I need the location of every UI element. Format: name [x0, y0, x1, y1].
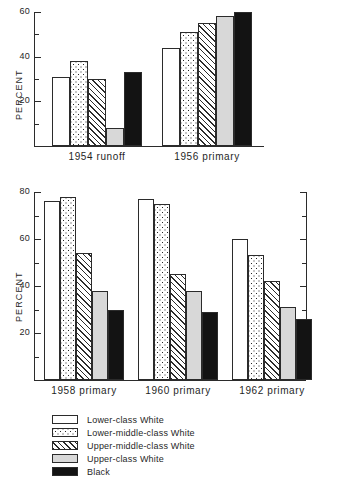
y-axis-tick-label: 20 [8, 327, 30, 337]
x-axis-group-label: 1960 primary [126, 385, 230, 396]
y-axis-tick-right [300, 192, 306, 193]
y-axis-tick [35, 263, 39, 264]
bar [186, 291, 202, 380]
bar [216, 16, 234, 146]
figure-root: 6040201954 runoff1956 primary PERCENT 80… [0, 0, 341, 489]
legend-label: Lower-middle-class White [87, 428, 195, 438]
y-axis-tick [35, 192, 41, 193]
bar [106, 128, 124, 146]
legend-item: Lower-class White [52, 413, 292, 426]
y-axis-tick-right [300, 239, 306, 240]
y-axis-tick-right [302, 310, 306, 311]
legend-swatch [52, 415, 78, 424]
y-axis-tick [35, 239, 41, 240]
x-axis-group-label: 1954 runoff [40, 151, 154, 162]
x-axis-group-label: 1956 primary [150, 151, 264, 162]
y-axis-tick-label: 60 [8, 6, 30, 16]
legend-label: Black [87, 467, 110, 477]
y-axis-tick [35, 286, 41, 287]
bar [296, 319, 312, 380]
y-axis-title-bottom: PERCENT [14, 271, 24, 322]
legend-swatch [52, 441, 78, 450]
plot-area-top: 6040201954 runoff1956 primary [34, 12, 264, 146]
bar [76, 253, 92, 380]
y-axis-tick [35, 310, 39, 311]
chart-legend: Lower-class WhiteLower-middle-class Whit… [52, 413, 292, 478]
y-axis-tick [35, 57, 41, 58]
y-axis-tick [35, 101, 41, 102]
legend-swatch [52, 467, 78, 476]
legend-item: Lower-middle-class White [52, 426, 292, 439]
bar [162, 48, 180, 146]
y-axis-title-top: PERCENT [14, 69, 24, 120]
y-axis-tick-label: 60 [8, 233, 30, 243]
y-axis-tick-right [302, 216, 306, 217]
y-axis-tick-right [300, 286, 306, 287]
y-axis-tick-label: 80 [8, 186, 30, 196]
legend-swatch [52, 454, 78, 463]
bar [180, 32, 198, 146]
bar [198, 23, 216, 146]
bar [138, 199, 154, 380]
x-axis-line [34, 380, 306, 381]
bar [232, 239, 248, 380]
legend-item: Upper-middle-class White [52, 439, 292, 452]
bar [280, 307, 296, 380]
chart-panel-top: 6040201954 runoff1956 primary [34, 12, 264, 146]
bar [52, 77, 70, 146]
chart-panel-bottom: 806040201958 primary1960 primary1962 pri… [34, 192, 306, 380]
bar [124, 72, 142, 146]
bar [70, 61, 88, 146]
x-axis-line [34, 146, 264, 147]
legend-swatch [52, 428, 78, 437]
y-axis-tick [35, 79, 39, 80]
bar [108, 310, 124, 381]
bar [154, 204, 170, 380]
y-axis-tick [35, 124, 39, 125]
legend-label: Upper-class White [87, 454, 164, 464]
bar [248, 255, 264, 380]
y-axis-tick-right [302, 263, 306, 264]
x-axis-group-label: 1958 primary [32, 385, 136, 396]
bar [202, 312, 218, 380]
bar [44, 201, 60, 380]
y-axis-tick-label: 40 [8, 51, 30, 61]
bar [234, 12, 252, 146]
y-axis-tick [35, 333, 41, 334]
bar [170, 274, 186, 380]
bar [264, 281, 280, 380]
bar [60, 197, 76, 380]
bar [92, 291, 108, 380]
y-axis-tick [35, 357, 39, 358]
legend-item: Black [52, 465, 292, 478]
legend-label: Lower-class White [87, 415, 164, 425]
legend-item: Upper-class White [52, 452, 292, 465]
y-axis-tick [35, 216, 39, 217]
legend-label: Upper-middle-class White [87, 441, 195, 451]
y-axis-tick [35, 12, 41, 13]
y-axis-tick [35, 34, 39, 35]
bar [88, 79, 106, 146]
x-axis-group-label: 1962 primary [220, 385, 324, 396]
plot-area-bottom: 806040201958 primary1960 primary1962 pri… [34, 192, 306, 380]
